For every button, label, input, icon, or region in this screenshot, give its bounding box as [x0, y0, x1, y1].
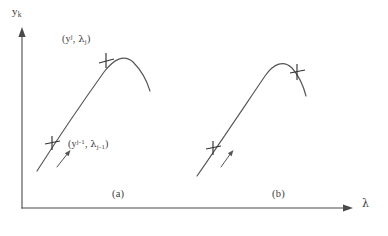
axes-group: [18, 27, 353, 212]
figure-canvas: [0, 0, 388, 236]
y-superscript: j-1: [77, 138, 85, 145]
panel-b-plot: [197, 64, 306, 176]
panel-caption-a: (a): [112, 189, 124, 200]
point-label-j-minus-1: (yj-1, λj-1): [68, 139, 109, 151]
marker-b-lower: [206, 141, 221, 155]
paren-close: ): [87, 33, 91, 44]
annotation-arrow-a: [57, 150, 71, 167]
panel-caption-b: (b): [272, 189, 285, 200]
curve-b: [197, 64, 306, 176]
y-axis-arrowhead: [18, 27, 25, 37]
figure-container: yk λ (yj, λj) (yj-1, λj-1) (a) (b): [0, 0, 388, 236]
marker-b-upper: [290, 64, 305, 80]
marker-a-upper: [99, 53, 114, 68]
panel-a-plot: [37, 53, 150, 171]
point-label-j: (yj, λj): [62, 34, 90, 46]
y-axis-label: yk: [12, 6, 22, 19]
lambda-subscript: j-1: [97, 143, 105, 150]
annotation-arrow-b: [221, 150, 234, 167]
curve-a: [37, 58, 150, 171]
y-axis-label-subscript: k: [18, 10, 22, 19]
x-axis-label: λ: [362, 198, 369, 209]
paren-close: ): [105, 138, 109, 149]
x-axis-arrowhead: [343, 205, 353, 212]
